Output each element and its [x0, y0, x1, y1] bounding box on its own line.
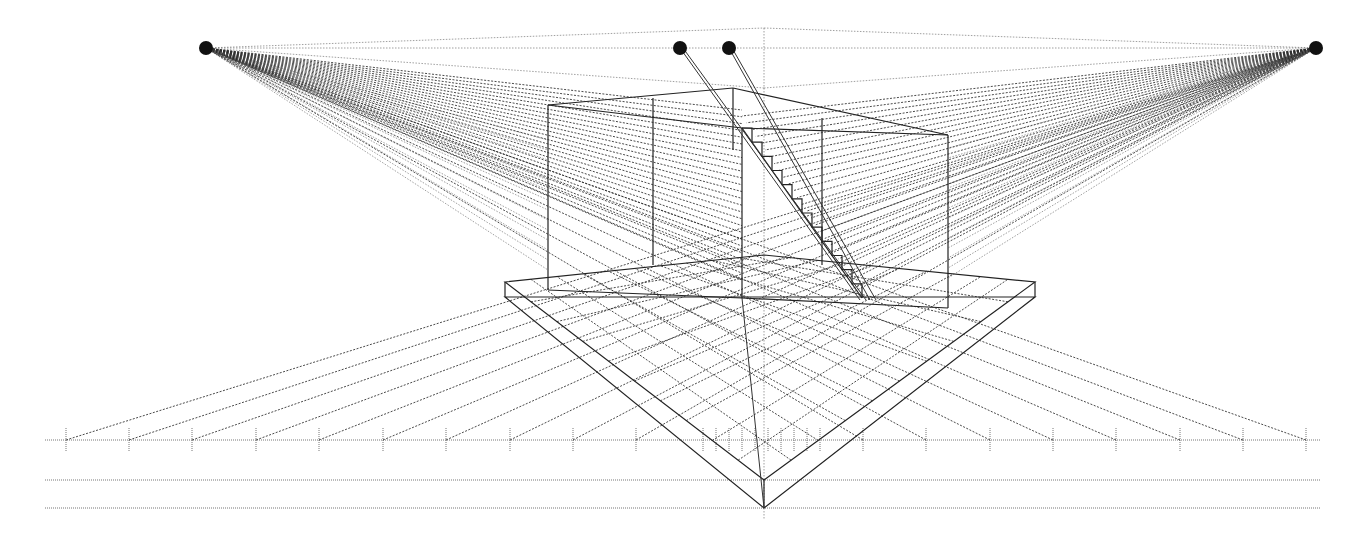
ray-to-right-vp: [756, 48, 1316, 136]
ray-to-left-vp: [206, 48, 742, 110]
ray-to-right-vp: [742, 48, 1316, 116]
sp-line: [742, 298, 764, 508]
center-vp-line: [683, 48, 866, 300]
perspective-drawing: [0, 0, 1365, 548]
right-vp-dot: [1309, 41, 1323, 55]
box-bottom-edge: [742, 298, 948, 308]
ray-to-right-vp: [636, 48, 1316, 440]
ray-to-left-vp: [206, 48, 742, 137]
ray-to-right-vp: [788, 48, 1316, 184]
ray-to-right-vp: [760, 48, 1316, 143]
left-vp-dot: [199, 41, 213, 55]
center-vp-b-dot: [722, 41, 736, 55]
ray-to-right-vp: [765, 48, 1316, 150]
ray-to-right-vp: [848, 48, 1316, 272]
ray-to-left-vp: [206, 48, 742, 198]
ray-to-right-vp: [446, 48, 1316, 440]
box-top-edge: [548, 105, 742, 128]
ray-to-right-vp: [948, 48, 1316, 158]
ray-to-left-vp: [206, 48, 548, 270]
ray-to-right-vp: [948, 48, 1316, 168]
ray-to-right-vp: [834, 48, 1316, 252]
ray-to-right-vp: [839, 48, 1316, 259]
ray-to-right-vp: [774, 48, 1316, 164]
ray-to-left-vp: [206, 48, 742, 124]
ray-to-left-vp: [206, 48, 742, 260]
floor-slab: [505, 255, 1035, 480]
floor-grid-line: [609, 271, 873, 401]
ray-to-right-vp: [66, 48, 1316, 440]
floor-grid-line: [531, 279, 791, 460]
ray-to-right-vp: [948, 48, 1316, 188]
ray-to-left-vp: [206, 48, 742, 232]
center-vp-line: [732, 48, 876, 300]
center-vp-a-dot: [673, 41, 687, 55]
ray-to-left-vp: [206, 48, 1180, 440]
ray-to-left-vp: [206, 48, 548, 200]
ray-to-left-vp: [206, 48, 548, 230]
center-vp-line: [729, 48, 870, 300]
ray-to-left-vp: [206, 48, 742, 151]
floor-grid-line: [557, 277, 818, 441]
horizon-guide: [764, 28, 1316, 48]
ray-to-left-vp: [206, 48, 742, 205]
ray-to-right-vp: [852, 48, 1316, 279]
ray-to-right-vp: [510, 48, 1316, 440]
ray-to-left-vp: [206, 48, 742, 158]
ray-to-left-vp: [206, 48, 742, 171]
ray-to-left-vp: [206, 48, 548, 260]
ray-to-right-vp: [948, 48, 1316, 248]
ray-to-left-vp: [206, 48, 742, 219]
perspective-diagram: [0, 0, 1365, 548]
ray-to-right-vp: [948, 48, 1316, 268]
ray-to-left-vp: [206, 48, 742, 178]
